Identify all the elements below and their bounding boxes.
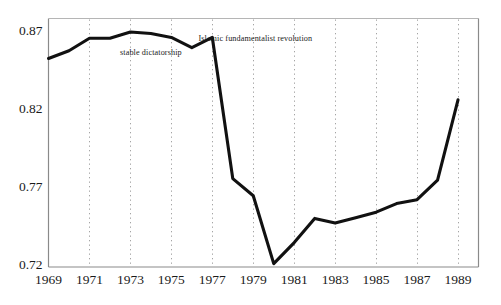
y-tick-label-0.77: 0.77 bbox=[2, 179, 43, 195]
x-tick-label-1989: 1989 bbox=[434, 272, 482, 288]
y-tick-label-0.72: 0.72 bbox=[2, 257, 43, 273]
y-tick-label-0.87: 0.87 bbox=[2, 23, 43, 39]
plot-canvas bbox=[0, 0, 501, 305]
y-tick-label-0.82: 0.82 bbox=[2, 101, 43, 117]
annotation-2: Islamic fundamentalist revolution bbox=[198, 34, 312, 43]
annotation-1: stable dictatorship bbox=[120, 48, 182, 57]
line-chart: 0.720.770.820.87 19691971197319751977197… bbox=[0, 0, 501, 305]
